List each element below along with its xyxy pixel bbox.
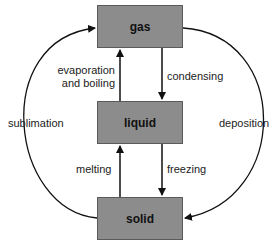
phase-diagram: gas liquid solid evaporation and boiling…	[0, 0, 278, 244]
evaporation-label-line2: and boiling	[51, 77, 115, 90]
evaporation-label: evaporation and boiling	[51, 64, 115, 90]
melting-label: melting	[76, 163, 111, 176]
freezing-label: freezing	[167, 163, 206, 176]
evaporation-label-line1: evaporation	[51, 64, 115, 77]
solid-state-box: solid	[97, 197, 183, 240]
gas-state-box: gas	[97, 5, 183, 48]
deposition-label: deposition	[219, 117, 269, 130]
gas-label: gas	[130, 20, 151, 34]
condensing-label: condensing	[167, 70, 223, 83]
liquid-label: liquid	[124, 116, 156, 130]
sublimation-label: sublimation	[8, 117, 64, 130]
solid-label: solid	[126, 212, 154, 226]
liquid-state-box: liquid	[97, 101, 183, 144]
